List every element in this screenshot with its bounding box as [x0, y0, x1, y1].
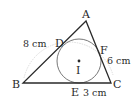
label-i: I: [76, 64, 80, 77]
label-e: E: [71, 86, 79, 99]
label-ec-length: 3 cm: [83, 87, 106, 98]
label-b: B: [12, 78, 20, 91]
label-c: C: [113, 78, 121, 91]
label-ab-length: 8 cm: [23, 38, 46, 49]
label-a: A: [81, 8, 91, 21]
label-d: D: [55, 37, 64, 50]
label-ac-length: 6 cm: [107, 55, 130, 66]
incenter-dot: [78, 60, 81, 63]
triangle-abc: [23, 21, 111, 83]
triangle-incircle-diagram: A B C D E F I 8 cm 6 cm 3 cm: [0, 0, 138, 106]
